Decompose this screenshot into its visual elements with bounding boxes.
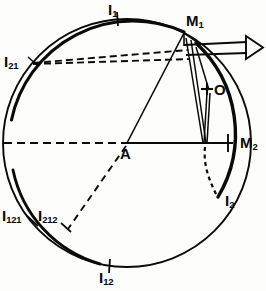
label-M1: M1 xyxy=(186,13,203,30)
label-I21: I21 xyxy=(4,54,18,71)
dashed-ray-A-to-I212 xyxy=(68,146,126,229)
beam-edge-lower xyxy=(186,53,247,55)
ray-bundle-O-M2-b xyxy=(207,93,210,143)
label-I121: I121 xyxy=(2,208,21,225)
optics-diagram: I1 I21 I121 I212 I12 I2 M1 M2 A O xyxy=(0,0,266,291)
label-M2: M2 xyxy=(240,135,257,152)
label-I212: I212 xyxy=(38,208,57,225)
beam-edge-upper xyxy=(184,42,247,45)
beam-arrowhead-icon xyxy=(246,36,263,59)
ray-A-to-M1 xyxy=(127,33,184,143)
label-A: A xyxy=(120,146,131,162)
label-I12: I12 xyxy=(99,270,113,287)
circle-arc-thick-upper-left xyxy=(12,21,185,120)
label-O: O xyxy=(214,82,226,98)
label-I2: I2 xyxy=(225,193,234,210)
diagram-canvas xyxy=(0,0,266,291)
dashed-curve-M2-to-I2 xyxy=(205,147,217,196)
label-I1: I1 xyxy=(108,2,117,19)
